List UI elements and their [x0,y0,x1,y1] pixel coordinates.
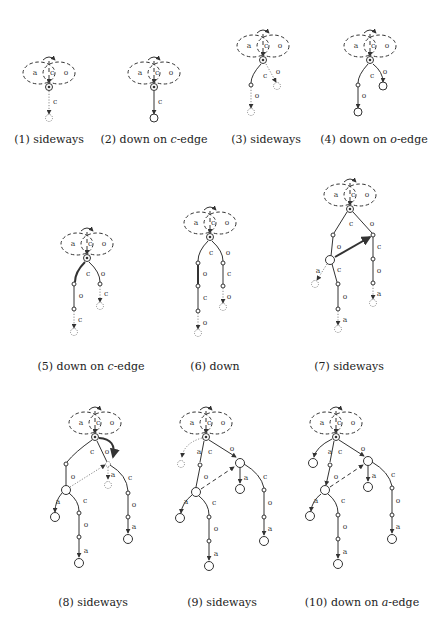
trie-node [262,515,266,519]
panel-2: acoc [128,57,180,122]
panel-9: acoacooacacooaa [176,407,273,571]
caption-panel-10: (10) down on a-edge [305,596,419,609]
root-loop-ellipses: aco [324,179,376,213]
edge-label: a [314,496,319,505]
edge-label: c [338,447,342,456]
trie-node [196,309,200,313]
panel-1: acoc [23,57,75,122]
trie-node [274,83,281,90]
edge-label: a [343,315,348,324]
root-loop-ellipses: aco [69,407,121,441]
edge-label: c [86,269,90,278]
trie-node [335,326,342,333]
edge-label: o [102,239,107,248]
panel-6: acocooccoo [184,207,236,337]
edge-label: a [396,522,401,531]
trie-node [195,330,202,337]
trie-node [364,457,373,466]
trie-node [321,486,330,495]
edge-label: o [343,522,348,531]
edge-label: a [33,68,38,77]
root-loop-ellipses: aco [180,407,232,441]
edge-label: c [203,293,207,302]
trie-edge [331,237,333,256]
edge-label: c [158,97,162,106]
edge-label: c [264,41,268,50]
trie-edge [373,64,383,82]
trie-node [370,300,377,307]
trie-node [236,459,245,468]
trie-node [356,83,360,87]
diagram-canvas: acocacocacocooacocooacocooccacocooccooac… [0,0,435,628]
edge-label: o [169,68,174,77]
edge-label: o [334,472,339,481]
trie-node [371,281,375,285]
trie-node [207,539,211,543]
trie-node [71,329,78,336]
trie-node [260,537,269,546]
edge-label: c [227,269,231,278]
caption-panel-5: (5) down on c-edge [38,360,145,373]
edge-label: o [110,418,115,427]
edge-label: o [396,496,401,505]
edge-label: o [227,292,232,301]
edge-label: a [214,549,219,558]
trie-node [388,535,397,544]
panel-8: acocooacacooaa [51,407,137,568]
edge-label: o [361,444,366,453]
edge-label: o [79,291,84,300]
caption-panel-6: (6) down [190,360,239,373]
edge-label: o [365,190,370,199]
trie-node [46,115,53,122]
edge-label: c [370,71,374,80]
edge-label: c [377,242,381,251]
trie-edge [328,494,338,513]
caption-panel-3: (3) sideways [231,133,301,146]
edge-label: c [104,289,108,298]
trie-edge [364,30,376,33]
edge-label: o [276,67,281,76]
edge-label: o [221,418,226,427]
edge-label: o [362,91,367,100]
edge-label: a [316,266,321,275]
trie-edge [89,407,101,410]
edge-label: a [111,470,116,479]
trie-node [124,535,133,544]
edge-label: a [184,497,189,506]
trie-edge [148,57,160,60]
trie-edge [89,262,100,282]
edge-label: a [190,418,195,427]
trie-node [336,282,340,286]
trie-edge [266,64,276,82]
edge-label: c [351,190,355,199]
trie-node [306,512,315,521]
root-loop-ellipses: aco [184,207,236,241]
edge-label: c [128,473,132,482]
edge-label: c [155,68,159,77]
trie-edge [330,407,342,410]
edge-label: c [341,496,345,505]
trie-node [371,233,375,237]
edge-label: a [354,41,359,50]
edge-label: a [372,471,377,480]
panel-4: acocoo [344,30,396,116]
edge-label: o [204,472,209,481]
trie-node [364,483,373,492]
trie-node [331,233,335,237]
caption-panel-4: (4) down on o-edge [320,133,427,146]
root-loop-ellipses: aco [237,30,289,64]
edge-label: a [268,524,273,533]
edge-label: c [88,239,92,248]
trie-edge [200,407,212,410]
trie-edge [334,212,347,233]
trie-node [126,491,130,495]
edge-label: c [391,470,395,479]
edge-label: a [244,473,249,482]
trie-node [354,108,362,116]
edge-label: o [268,498,273,507]
trie-node [220,304,227,311]
trie-edge [257,30,269,33]
trie-node [336,513,340,517]
edge-label: o [370,219,375,228]
trie-node [97,303,104,310]
